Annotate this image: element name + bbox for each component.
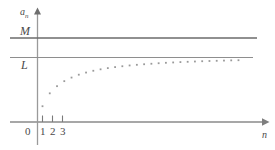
sequence-dot bbox=[92, 70, 94, 72]
sequence-dot bbox=[114, 66, 116, 68]
x-tick-label-2: 2 bbox=[50, 126, 56, 137]
y-axis-label: an bbox=[20, 7, 29, 20]
sequence-dot bbox=[223, 60, 225, 62]
sequence-limit-figure: an M L n 0 1 2 3 bbox=[0, 0, 275, 150]
sequence-dot bbox=[194, 61, 196, 63]
sequence-dot bbox=[129, 65, 131, 67]
sequence-dot bbox=[56, 85, 58, 87]
x-tick-label-1: 1 bbox=[40, 126, 46, 137]
sequence-dot bbox=[121, 65, 123, 67]
sequence-dot bbox=[165, 62, 167, 64]
x-axis-ticks bbox=[43, 116, 63, 123]
sequence-dot bbox=[172, 62, 174, 64]
x-axis-label: n bbox=[262, 130, 267, 140]
sequence-dot bbox=[63, 80, 65, 82]
sequence-dot bbox=[238, 59, 240, 61]
sequence-dot bbox=[216, 60, 218, 62]
sequence-dot bbox=[143, 63, 145, 65]
sequence-dot bbox=[230, 59, 232, 61]
sequence-data-points bbox=[42, 59, 240, 107]
sequence-dot bbox=[209, 60, 211, 62]
sequence-dot bbox=[49, 92, 51, 94]
upper-bound-label-M: M bbox=[20, 25, 30, 37]
sequence-dot bbox=[100, 68, 102, 70]
origin-label: 0 bbox=[25, 126, 31, 137]
sequence-dot bbox=[78, 74, 80, 76]
sequence-dot bbox=[150, 63, 152, 65]
sequence-dot bbox=[71, 77, 73, 79]
sequence-dot bbox=[42, 105, 44, 107]
sequence-dot bbox=[180, 61, 182, 63]
sequence-dot bbox=[107, 67, 109, 69]
sequence-dot bbox=[136, 64, 138, 66]
y-axis-arrowhead bbox=[34, 8, 41, 15]
x-axis-arrowhead bbox=[262, 118, 270, 126]
sequence-dot bbox=[187, 61, 189, 63]
sequence-dot bbox=[85, 72, 87, 74]
sequence-dot bbox=[158, 62, 160, 64]
limit-label-L: L bbox=[21, 59, 28, 71]
x-tick-label-3: 3 bbox=[60, 126, 66, 137]
sequence-dot bbox=[201, 60, 203, 62]
